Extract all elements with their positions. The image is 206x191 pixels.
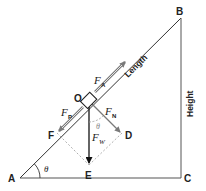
base-angle-theta: θ bbox=[44, 164, 49, 174]
point-F-label: F bbox=[48, 130, 54, 141]
label-FN: F N bbox=[104, 105, 116, 119]
label-FW: F W bbox=[91, 131, 106, 146]
label-FA: F A bbox=[93, 74, 106, 88]
length-label: Length bbox=[122, 52, 149, 79]
svg-text:F: F bbox=[104, 105, 112, 117]
point-E-label: E bbox=[85, 170, 92, 181]
svg-text:A: A bbox=[101, 82, 106, 88]
dashed-F-E bbox=[57, 133, 89, 165]
point-D-label: D bbox=[125, 130, 132, 141]
label-FP: F P bbox=[60, 106, 72, 120]
point-C-label: C bbox=[184, 173, 191, 184]
force-angle-theta: θ bbox=[96, 122, 100, 131]
height-label: Height bbox=[185, 90, 195, 117]
svg-text:N: N bbox=[112, 113, 116, 119]
svg-text:F: F bbox=[91, 131, 99, 143]
svg-text:F: F bbox=[93, 74, 101, 86]
svg-text:F: F bbox=[60, 106, 68, 118]
point-A-label: A bbox=[8, 173, 15, 184]
point-O-label: O bbox=[74, 93, 82, 104]
triangle bbox=[20, 18, 181, 178]
base-angle-arc bbox=[35, 164, 41, 178]
svg-text:P: P bbox=[68, 114, 72, 120]
point-B-label: B bbox=[176, 6, 183, 17]
svg-text:W: W bbox=[99, 138, 106, 146]
inclined-plane-diagram: A B C O D E F Length Height F A F P F N … bbox=[0, 0, 206, 191]
hypotenuse-line bbox=[20, 18, 181, 178]
